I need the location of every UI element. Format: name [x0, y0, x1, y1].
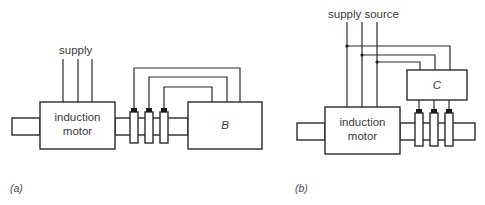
induction-motor-a: induction motor — [40, 102, 115, 149]
slip-rings-a — [130, 108, 168, 143]
supply-label-a: supply — [59, 44, 92, 56]
converter-box-c: C — [407, 70, 467, 100]
slip-ring — [145, 112, 153, 143]
motor-label-line2-b: motor — [348, 130, 378, 142]
junction-dot — [345, 44, 348, 47]
caption-a: (a) — [10, 182, 23, 194]
converter-label-c: C — [433, 79, 442, 91]
diagram-b: supply source C — [295, 8, 475, 194]
diagram-a: supply induction motor — [10, 44, 262, 194]
slip-rings-b — [415, 109, 453, 146]
slip-ring — [130, 112, 138, 143]
motor-label-line2-a: motor — [63, 125, 93, 137]
slip-ring — [160, 112, 168, 143]
brush-icon — [146, 108, 152, 112]
shaft-left-a — [12, 118, 40, 135]
load-box-b: B — [188, 102, 262, 149]
slip-ring — [430, 113, 438, 146]
motor-label-line1-b: induction — [339, 116, 385, 128]
shaft-left-b — [297, 123, 325, 140]
brush-icon — [416, 109, 422, 113]
slip-ring — [445, 113, 453, 146]
tap-lines-b — [345, 44, 450, 70]
junction-dot — [360, 53, 363, 56]
slip-ring — [415, 113, 423, 146]
brush-icon — [431, 109, 437, 113]
brush-icon — [131, 108, 137, 112]
caption-b: (b) — [295, 182, 308, 194]
brush-icon — [446, 109, 452, 113]
diagram-canvas: supply induction motor — [0, 0, 485, 205]
supply-lines-b — [347, 22, 377, 107]
rotor-wires-b — [419, 100, 449, 109]
induction-motor-b: induction motor — [325, 107, 400, 154]
load-label-b: B — [221, 119, 229, 131]
junction-dot — [375, 60, 378, 63]
supply-source-label-b: supply source — [328, 8, 399, 20]
motor-label-line1-a: induction — [54, 111, 100, 123]
supply-lines-a — [63, 59, 92, 102]
brush-icon — [161, 108, 167, 112]
